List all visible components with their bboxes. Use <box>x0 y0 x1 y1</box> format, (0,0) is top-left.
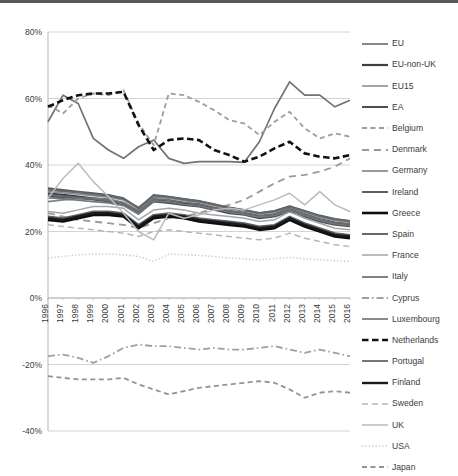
legend-item-italy[interactable]: Italy <box>362 266 458 287</box>
legend-item-eu[interactable]: EU <box>362 33 458 54</box>
x-axis-tick-label: 2013 <box>297 304 307 323</box>
x-axis-tick-label: 2001 <box>116 304 126 323</box>
legend-swatch-icon <box>362 399 388 409</box>
legend-item-spain[interactable]: Spain <box>362 224 458 245</box>
y-axis-tick-label: 60% <box>25 94 42 104</box>
x-axis-tick-label: 2005 <box>176 304 186 323</box>
x-axis-tick-label: 2009 <box>236 304 246 323</box>
legend-label: Luxembourg <box>392 315 440 324</box>
legend-swatch-icon <box>362 378 388 388</box>
legend-swatch-icon <box>362 293 388 303</box>
series-line-cyprus <box>48 345 350 363</box>
legend-label: Sweden <box>392 399 423 408</box>
legend-label: USA <box>392 442 410 451</box>
legend-label: Germany <box>392 166 427 175</box>
x-axis-tick-label: 2006 <box>191 304 201 323</box>
legend-swatch-icon <box>362 250 388 260</box>
legend-swatch-icon <box>362 229 388 239</box>
legend-item-eu-non-uk[interactable]: EU-non-UK <box>362 54 458 75</box>
legend-swatch-icon <box>362 272 388 282</box>
legend-label: Portugal <box>392 357 424 366</box>
x-axis-tick-label: 1997 <box>55 304 65 323</box>
legend-label: Italy <box>392 272 408 281</box>
legend-label: EU15 <box>392 82 414 91</box>
legend-item-portugal[interactable]: Portugal <box>362 351 458 372</box>
legend-swatch-icon <box>362 462 388 472</box>
legend-item-japan[interactable]: Japan <box>362 457 458 476</box>
x-axis-tick-label: 2002 <box>131 304 141 323</box>
y-axis-tick-label: 0% <box>30 293 43 303</box>
legend-swatch-icon <box>362 81 388 91</box>
x-axis-tick-label: 1998 <box>70 304 80 323</box>
legend-item-eu15[interactable]: EU15 <box>362 75 458 96</box>
x-axis-tick-label: 2015 <box>327 304 337 323</box>
legend-label: Cyprus <box>392 294 419 303</box>
legend-item-cyprus[interactable]: Cyprus <box>362 287 458 308</box>
x-axis-tick-label: 2014 <box>312 304 322 323</box>
x-axis-tick-label: 2008 <box>221 304 231 323</box>
series-line-usa <box>48 254 350 261</box>
legend-label: Belgium <box>392 124 423 133</box>
y-axis-tick-label: 20% <box>25 227 42 237</box>
y-axis-tick-label: 80% <box>25 27 42 37</box>
legend-label: EU <box>392 39 404 48</box>
legend-swatch-icon <box>362 145 388 155</box>
x-axis-tick-label: 2003 <box>146 304 156 323</box>
legend-label: France <box>392 251 419 260</box>
legend-item-france[interactable]: France <box>362 245 458 266</box>
series-line-japan <box>48 376 350 398</box>
y-axis-tick-label: -20% <box>22 360 42 370</box>
legend-item-denmark[interactable]: Denmark <box>362 139 458 160</box>
legend-swatch-icon <box>362 166 388 176</box>
legend-item-finland[interactable]: Finland <box>362 372 458 393</box>
legend-item-sweden[interactable]: Sweden <box>362 393 458 414</box>
legend-item-belgium[interactable]: Belgium <box>362 118 458 139</box>
series-line-sweden <box>48 225 350 247</box>
legend-item-uk[interactable]: UK <box>362 414 458 435</box>
legend-item-greece[interactable]: Greece <box>362 203 458 224</box>
legend-swatch-icon <box>362 335 388 345</box>
x-axis-tick-label: 1999 <box>85 304 95 323</box>
legend-swatch-icon <box>362 60 388 70</box>
legend-item-netherlands[interactable]: Netherlands <box>362 330 458 351</box>
y-axis-tick-label: -40% <box>22 426 42 436</box>
legend-item-ireland[interactable]: Ireland <box>362 181 458 202</box>
legend-swatch-icon <box>362 102 388 112</box>
legend-label: UK <box>392 421 404 430</box>
legend-swatch-icon <box>362 420 388 430</box>
legend-label: Netherlands <box>392 336 438 345</box>
legend-swatch-icon <box>362 39 388 49</box>
legend-swatch-icon <box>362 187 388 197</box>
legend-swatch-icon <box>362 441 388 451</box>
legend-item-ea[interactable]: EA <box>362 97 458 118</box>
x-axis-tick-label: 2012 <box>282 304 292 323</box>
legend-item-germany[interactable]: Germany <box>362 160 458 181</box>
legend-swatch-icon <box>362 356 388 366</box>
legend-swatch-icon <box>362 123 388 133</box>
legend-label: Ireland <box>392 188 418 197</box>
legend-item-luxembourg[interactable]: Luxembourg <box>362 308 458 329</box>
legend-label: Denmark <box>392 145 427 154</box>
chart-legend: EUEU-non-UKEU15EABelgiumDenmarkGermanyIr… <box>362 33 458 476</box>
x-axis-tick-label: 2000 <box>100 304 110 323</box>
x-axis-tick-label: 2011 <box>267 304 277 323</box>
x-axis-tick-label: 2016 <box>342 304 352 323</box>
legend-label: Greece <box>392 209 420 218</box>
legend-label: EA <box>392 103 403 112</box>
legend-label: EU-non-UK <box>392 60 436 69</box>
x-axis-tick-label: 2010 <box>251 304 261 323</box>
legend-label: Finland <box>392 378 420 387</box>
y-axis-tick-label: 40% <box>25 160 42 170</box>
legend-swatch-icon <box>362 314 388 324</box>
legend-item-usa[interactable]: USA <box>362 436 458 457</box>
legend-label: Spain <box>392 230 414 239</box>
legend-swatch-icon <box>362 208 388 218</box>
legend-label: Japan <box>392 463 415 472</box>
x-axis-tick-label: 1996 <box>40 304 50 323</box>
x-axis-tick-label: 2004 <box>161 304 171 323</box>
x-axis-tick-label: 2007 <box>206 304 216 323</box>
